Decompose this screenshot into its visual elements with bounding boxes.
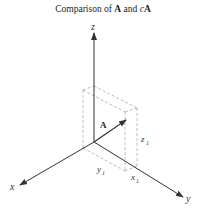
vector-a-arrow [94, 120, 126, 142]
svg-text:1: 1 [102, 170, 105, 176]
x-axis-label: x [9, 181, 15, 192]
y-axis-label: y [185, 193, 191, 204]
y-axis [94, 142, 183, 197]
z1-label: z 1 [140, 134, 149, 146]
y1-label: y 1 [96, 164, 105, 176]
vector-diagram: z x y A z 1 y 1 x 1 [0, 0, 206, 222]
component-box [83, 86, 137, 171]
svg-text:1: 1 [146, 140, 149, 146]
x-axis [20, 142, 94, 185]
svg-text:x: x [130, 172, 135, 182]
svg-text:1: 1 [136, 178, 139, 184]
svg-text:z: z [140, 134, 145, 144]
svg-text:y: y [96, 164, 101, 174]
x1-label: x 1 [130, 172, 139, 184]
z-axis-label: z [90, 21, 95, 32]
vector-a-label: A [100, 120, 107, 130]
